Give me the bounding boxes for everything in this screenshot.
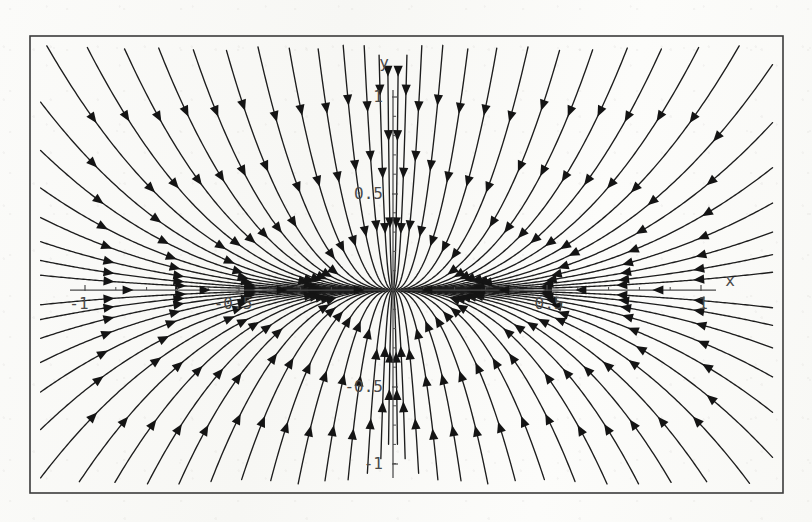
trajectory-curve	[125, 49, 393, 290]
trajectory-arrowhead	[120, 110, 130, 122]
trajectory-arrowhead	[371, 220, 380, 231]
trajectory-curve	[393, 50, 593, 290]
x-axis-tick-label: 0.5	[535, 294, 564, 313]
trajectory-arrowhead	[146, 420, 156, 432]
trajectory-arrowhead	[378, 401, 387, 412]
trajectory-arrowhead	[392, 389, 401, 400]
trajectory-arrowhead	[399, 168, 408, 179]
trajectory-arrowhead	[509, 353, 519, 365]
trajectory-curve	[41, 218, 393, 290]
trajectory-arrowhead	[165, 251, 177, 260]
trajectory-arrowhead	[169, 262, 181, 271]
trajectory-arrowhead	[406, 220, 415, 231]
trajectory-arrowhead	[440, 374, 449, 386]
phase-portrait-plot: -1-0.50.5110.5-0.5-1xy	[0, 0, 812, 522]
trajectory-curve	[393, 203, 773, 290]
trajectory-arrowhead	[620, 267, 632, 276]
trajectory-arrowhead	[702, 364, 714, 374]
x-axis-tick-label: -0.5	[214, 294, 253, 313]
trajectory-arrowhead	[292, 181, 301, 193]
streamline-group	[41, 45, 773, 484]
trajectory-arrowhead	[229, 236, 241, 246]
trajectory-arrowhead	[423, 375, 432, 387]
trajectory-arrowhead	[168, 177, 179, 188]
trajectory-arrowhead	[411, 418, 420, 429]
trajectory-curve	[393, 49, 661, 290]
trajectory-arrowhead	[172, 424, 182, 436]
trajectory-arrowhead	[425, 321, 434, 333]
trajectory-arrowhead	[622, 257, 634, 266]
trajectory-arrowhead	[695, 249, 707, 258]
trajectory-curve	[393, 50, 560, 290]
trajectory-arrowhead	[482, 104, 491, 116]
trajectory-arrowhead	[150, 213, 162, 223]
trajectory-curve	[258, 47, 393, 290]
trajectory-arrowhead	[625, 110, 634, 122]
trajectory-arrowhead	[486, 181, 495, 193]
trajectory-arrowhead	[284, 358, 294, 370]
trajectory-arrowhead	[604, 424, 614, 436]
y-axis-name-label: y	[379, 53, 389, 72]
plot-frame-group	[30, 36, 783, 493]
trajectory-arrowhead	[451, 248, 461, 260]
trajectory-curve	[47, 46, 393, 290]
trajectory-arrowhead	[465, 175, 474, 187]
trajectory-arrowhead	[622, 314, 634, 323]
trajectory-curve	[389, 290, 393, 444]
trajectory-arrowhead	[628, 360, 640, 370]
trajectory-arrowhead	[152, 110, 161, 122]
trajectory-arrowhead	[397, 223, 406, 234]
trajectory-arrowhead	[628, 328, 640, 337]
trajectory-arrowhead	[165, 320, 177, 329]
trajectory-arrowhead	[173, 301, 185, 310]
trajectory-arrowhead	[272, 221, 282, 233]
trajectory-arrowhead	[103, 256, 115, 265]
y-axis-tick-label: 1	[373, 87, 383, 106]
trajectory-arrowhead	[192, 174, 202, 186]
trajectory-arrowhead	[312, 175, 321, 187]
trajectory-arrowhead	[394, 66, 403, 77]
trajectory-arrowhead	[435, 316, 445, 328]
trajectory-arrowhead	[223, 316, 235, 325]
trajectory-curve	[289, 48, 393, 290]
trajectory-arrowhead	[444, 171, 453, 183]
trajectory-arrowhead	[304, 426, 313, 438]
trajectory-arrowhead	[215, 170, 225, 182]
trajectory-arrowhead	[380, 346, 389, 357]
trajectory-arrowhead	[630, 420, 640, 432]
trajectory-arrowhead	[231, 373, 241, 385]
trajectory-arrowhead	[417, 225, 426, 237]
trajectory-arrowhead	[333, 171, 342, 183]
trajectory-curve	[393, 123, 773, 290]
trajectory-curve	[393, 290, 773, 377]
x-axis-tick-label: -1	[69, 294, 88, 313]
trajectory-curve	[393, 290, 575, 482]
x-axis-flow-arrow	[652, 285, 663, 294]
trajectory-arrowhead	[449, 425, 458, 437]
trajectory-curve	[393, 290, 639, 484]
x-axis-name-label: x	[725, 271, 735, 290]
trajectory-arrowhead	[620, 304, 632, 313]
trajectory-arrowhead	[693, 275, 704, 284]
trajectory-arrowhead	[378, 168, 387, 179]
trajectory-arrowhead	[96, 351, 108, 360]
trajectory-arrowhead	[280, 422, 289, 434]
trajectory-arrowhead	[237, 99, 246, 111]
trajectory-arrowhead	[384, 130, 393, 141]
trajectory-arrowhead	[100, 240, 112, 249]
trajectory-arrowhead	[527, 322, 539, 332]
trajectory-arrowhead	[411, 150, 420, 161]
trajectory-arrowhead	[429, 235, 438, 247]
trajectory-arrowhead	[365, 150, 374, 161]
trajectory-arrowhead	[693, 264, 705, 273]
trajectory-arrowhead	[103, 315, 115, 324]
trajectory-arrowhead	[287, 215, 297, 227]
trajectory-arrowhead	[352, 321, 361, 333]
trajectory-arrowhead	[443, 311, 454, 322]
trajectory-arrowhead	[540, 99, 549, 111]
trajectory-arrowhead	[332, 311, 343, 322]
trajectory-arrowhead	[103, 276, 114, 285]
trajectory-arrowhead	[414, 101, 423, 112]
trajectory-arrowhead	[385, 389, 394, 400]
trajectory-arrowhead	[607, 177, 618, 188]
